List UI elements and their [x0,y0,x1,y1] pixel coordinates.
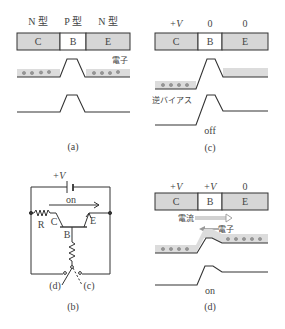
type-label-e: N 型 [98,15,118,27]
collector-label: C [51,216,58,227]
supply-label: +V [53,170,68,181]
region-label-e: E [242,36,248,47]
wire-left [31,213,63,274]
electron-label: 電子 [218,225,234,234]
region-label-e: E [242,196,248,207]
type-label-c: N 型 [28,15,48,27]
state-label: on [205,285,215,296]
region-label-c: C [173,196,180,207]
panel-d: +V +V 0 C B E 電流 電子 [155,181,268,313]
voltage-label-b: 0 [208,18,213,29]
switch-contact-c [79,272,82,275]
region-label-c: C [35,36,42,47]
caption-c: (c) [204,142,215,154]
region-label-b: B [70,36,77,47]
energy-band-upper [155,229,268,253]
resistor-label: R [38,219,45,230]
semiconductor-bar: C B E [17,33,130,50]
transistor-diagram: N 型 P 型 N 型 C B E 電子 (a) +V 0 [0,0,285,329]
voltage-label-b: +V [204,181,219,192]
panel-c: +V 0 0 C B E 逆バイアス off (c) [152,18,268,154]
switch-blade-right[interactable] [73,268,82,285]
base-label: B [64,229,71,240]
energy-band-upper [155,59,268,89]
current-arrow [195,214,232,222]
electron-band-left [155,245,196,253]
panel-a: N 型 P 型 N 型 C B E 電子 (a) [17,15,130,153]
region-label-b: B [207,36,214,47]
caption-b: (b) [67,301,79,313]
wire-top-right [73,187,110,213]
region-label-c: C [173,36,180,47]
switch-label-c: (c) [83,280,94,292]
switch-label-d: (d) [49,280,61,292]
voltage-label-e: 0 [243,181,248,192]
region-label-b: B [207,196,214,207]
energy-band-lower [155,266,268,285]
current-label: 電流 [178,213,194,223]
voltage-label-c: +V [170,181,185,192]
base-resistor [69,242,75,266]
switch-blade-left[interactable] [62,268,72,285]
caption-a: (a) [67,141,78,153]
switch-contact-d [64,272,67,275]
electron-label: 電子 [112,56,128,65]
wire-top-left [31,187,67,213]
state-label: off [204,125,216,136]
panel-b: +V on R C B E (d [29,170,111,313]
semiconductor-bar: C B E [155,33,268,50]
region-label-e: E [105,36,111,47]
electron-band-right [223,68,268,77]
switch-pivot [71,266,74,269]
current-label: on [66,194,76,205]
caption-d: (d) [204,301,216,313]
electron-band-left [155,81,196,89]
voltage-label-e: 0 [243,18,248,29]
semiconductor-bar: C B E [155,193,268,210]
voltage-label-c: +V [170,18,185,29]
emitter-label: E [90,215,96,226]
type-label-b: P 型 [64,15,82,27]
reverse-bias-label: 逆バイアス [152,95,192,105]
energy-band-lower [17,95,130,112]
